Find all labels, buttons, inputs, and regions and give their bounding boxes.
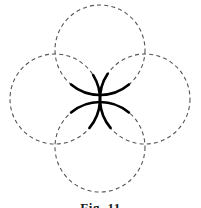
figure-caption: Fig. 11 — [0, 201, 201, 208]
figure-canvas: Fig. 11 — [0, 0, 201, 208]
illusory-contour-diagram — [0, 0, 201, 208]
